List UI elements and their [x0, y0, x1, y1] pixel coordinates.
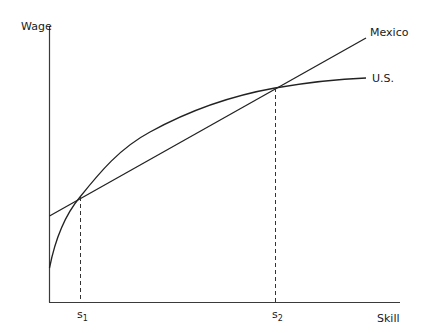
mexico-label: Mexico [370, 26, 409, 39]
mexico-line [50, 38, 367, 216]
svg-text:s1: s1 [77, 308, 88, 323]
s1-tick-label: s1 [77, 308, 88, 323]
s2-tick-label: s2 [272, 308, 283, 323]
x-axis-label: Skill [377, 312, 400, 325]
svg-text:s2: s2 [272, 308, 283, 323]
wage-skill-diagram: Wage Skill Mexico U.S. s1 s2 [0, 0, 422, 333]
us-label: U.S. [372, 72, 394, 85]
y-axis-label: Wage [21, 20, 52, 33]
us-curve [50, 78, 367, 268]
